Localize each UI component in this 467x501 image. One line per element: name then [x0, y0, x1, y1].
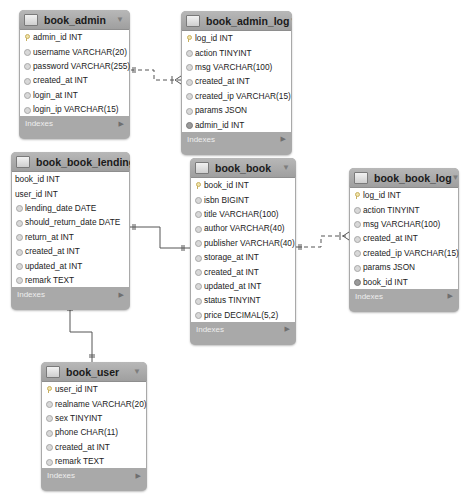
column-label: admin_id INT [33, 32, 82, 42]
column-row[interactable]: username VARCHAR(20) [20, 44, 129, 58]
column-label: status TINYINT [204, 295, 261, 305]
column-row[interactable]: updated_at INT [191, 279, 295, 293]
column-row[interactable]: status TINYINT [191, 293, 295, 307]
column-row[interactable]: params JSON [350, 260, 458, 274]
table-book-book-log[interactable]: book_book_log ▼ log_id INT action TINYIN… [349, 168, 459, 312]
column-row[interactable]: author VARCHAR(40) [191, 221, 295, 235]
column-diamond-icon [185, 78, 192, 85]
indexes-section[interactable]: Indexes ▶ [349, 289, 459, 304]
column-label: log_id INT [195, 33, 233, 43]
collapse-caret-icon[interactable]: ▼ [452, 173, 459, 182]
column-row[interactable]: login_at INT [20, 88, 129, 102]
column-row[interactable]: created_at INT [350, 231, 458, 245]
column-row[interactable]: return_at INT [12, 230, 129, 244]
column-row[interactable]: created_at INT [12, 244, 129, 258]
column-row[interactable]: user_id INT [42, 382, 146, 396]
table-header[interactable]: book_book_lending ▼ [11, 152, 130, 171]
expand-arrow-icon[interactable]: ▶ [285, 325, 290, 333]
table-book-book[interactable]: book_book ▼ book_id INT isbn BIGINT titl… [190, 158, 296, 345]
indexes-section[interactable]: Indexes ▶ [11, 287, 130, 302]
expand-arrow-icon[interactable]: ▶ [119, 291, 124, 299]
table-book-admin[interactable]: book_admin ▼ admin_id INT username VARCH… [19, 10, 130, 139]
column-diamond-icon [194, 268, 201, 275]
expand-arrow-icon[interactable]: ▶ [281, 135, 286, 143]
column-row[interactable]: user_id INT [12, 186, 129, 200]
indexes-label: Indexes [196, 325, 224, 334]
column-diamond-icon [185, 63, 192, 70]
indexes-section[interactable]: Indexes ▶ [41, 468, 147, 483]
column-label: isbn BIGINT [204, 195, 249, 205]
column-diamond-icon [194, 254, 201, 261]
collapse-caret-icon[interactable]: ▼ [289, 16, 292, 25]
column-row[interactable]: remark TEXT [42, 454, 146, 468]
column-row[interactable]: created_ip VARCHAR(15) [182, 89, 291, 103]
table-header[interactable]: book_book ▼ [190, 158, 296, 177]
column-row[interactable]: created_at INT [20, 73, 129, 87]
column-row[interactable]: action TINYINT [350, 202, 458, 216]
column-label: updated_at INT [25, 261, 82, 271]
primary-key-icon [353, 192, 360, 199]
column-label: publisher VARCHAR(40) [204, 238, 295, 248]
table-header[interactable]: book_book_log ▼ [349, 168, 459, 187]
column-label: remark TEXT [25, 275, 74, 285]
column-row[interactable]: created_at INT [182, 74, 291, 88]
table-icon [16, 156, 30, 168]
column-row[interactable]: realname VARCHAR(20) [42, 396, 146, 410]
column-row[interactable]: action TINYINT [182, 45, 291, 59]
column-label: book_id INT [204, 180, 249, 190]
column-row[interactable]: isbn BIGINT [191, 192, 295, 206]
collapse-caret-icon[interactable]: ▼ [282, 163, 290, 172]
expand-arrow-icon[interactable]: ▶ [119, 120, 124, 128]
column-row[interactable]: book_id INT [191, 178, 295, 192]
table-header[interactable]: book_admin_log ▼ [181, 11, 292, 30]
column-row[interactable]: publisher VARCHAR(40) [191, 236, 295, 250]
column-row[interactable]: admin_id INT [20, 30, 129, 44]
collapse-caret-icon[interactable]: ▼ [116, 15, 124, 24]
table-book-admin-log[interactable]: book_admin_log ▼ log_id INT action TINYI… [181, 11, 292, 155]
column-row[interactable]: book_id INT [12, 172, 129, 186]
column-row[interactable]: admin_id INT [182, 117, 291, 131]
column-label: created_at INT [55, 442, 110, 452]
expand-arrow-icon[interactable]: ▶ [448, 292, 453, 300]
column-diamond-icon [45, 400, 52, 407]
column-diamond-icon [15, 262, 22, 269]
table-icon [195, 162, 209, 174]
column-row[interactable]: updated_at INT [12, 258, 129, 272]
table-title: book_admin_log [206, 15, 289, 27]
column-diamond-icon [15, 219, 22, 226]
table-book-user[interactable]: book_user ▼ user_id INT realname VARCHAR… [41, 362, 147, 491]
column-diamond-icon [353, 206, 360, 213]
column-row[interactable]: msg VARCHAR(100) [182, 60, 291, 74]
column-row[interactable]: should_return_date DATE [12, 215, 129, 229]
column-row[interactable]: lending_date DATE [12, 201, 129, 215]
table-book-book-lending[interactable]: book_book_lending ▼ book_id INT user_id … [11, 152, 130, 310]
column-row[interactable]: log_id INT [182, 31, 291, 45]
column-row[interactable]: storage_at INT [191, 250, 295, 264]
table-header[interactable]: book_admin ▼ [19, 10, 130, 29]
column-row[interactable]: sex TINYINT [42, 411, 146, 425]
column-label: login_at INT [33, 90, 78, 100]
column-label: msg VARCHAR(100) [195, 62, 272, 72]
column-row[interactable]: title VARCHAR(100) [191, 207, 295, 221]
indexes-section[interactable]: Indexes ▶ [190, 322, 296, 337]
table-title: book_admin [44, 14, 116, 26]
column-row[interactable]: phone CHAR(11) [42, 425, 146, 439]
column-row[interactable]: created_at INT [42, 440, 146, 454]
expand-arrow-icon[interactable]: ▶ [136, 472, 141, 480]
column-label: created_ip VARCHAR(15) [363, 248, 459, 258]
column-row[interactable]: params JSON [182, 103, 291, 117]
column-row[interactable]: msg VARCHAR(100) [350, 217, 458, 231]
column-row[interactable]: password VARCHAR(255) [20, 59, 129, 73]
column-row[interactable]: price DECIMAL(5,2) [191, 308, 295, 322]
column-row[interactable]: book_id INT [350, 274, 458, 288]
indexes-section[interactable]: Indexes ▶ [181, 132, 292, 147]
column-row[interactable]: created_at INT [191, 264, 295, 278]
indexes-section[interactable]: Indexes ▶ [19, 116, 130, 131]
indexes-label: Indexes [17, 290, 45, 299]
column-row[interactable]: created_ip VARCHAR(15) [350, 246, 458, 260]
column-row[interactable]: login_ip VARCHAR(15) [20, 102, 129, 116]
column-row[interactable]: remark TEXT [12, 273, 129, 287]
column-row[interactable]: log_id INT [350, 188, 458, 202]
collapse-caret-icon[interactable]: ▼ [133, 367, 141, 376]
table-header[interactable]: book_user ▼ [41, 362, 147, 381]
